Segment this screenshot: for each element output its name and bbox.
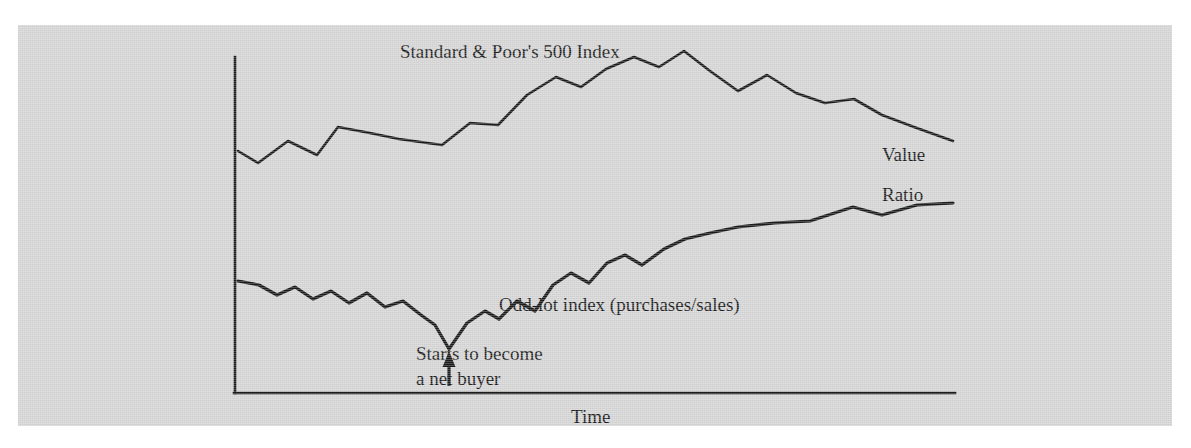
x-axis-label: Time	[571, 406, 610, 426]
annotation-net-buyer-line-1: Starts to become	[416, 341, 543, 366]
series-label-value: Value	[882, 144, 925, 166]
series-caption-odd-lot: Odd-lot index (purchases/sales)	[499, 294, 740, 316]
clipped-heading-bleed: p g	[0, 0, 1191, 18]
series-label-ratio: Ratio	[882, 184, 923, 206]
figure-root: p g Standard & Poor's 500 Index Value Ra…	[0, 0, 1191, 448]
chart-title: Standard & Poor's 500 Index	[400, 41, 620, 63]
annotation-net-buyer: Starts to become a net buyer	[416, 341, 543, 391]
annotation-net-buyer-line-2: a net buyer	[416, 366, 543, 391]
series-line-ratio	[238, 203, 953, 349]
chart-panel: Standard & Poor's 500 Index Value Ratio …	[18, 25, 1172, 426]
chart-plot-area	[18, 25, 1172, 426]
series-line-value	[238, 51, 953, 163]
